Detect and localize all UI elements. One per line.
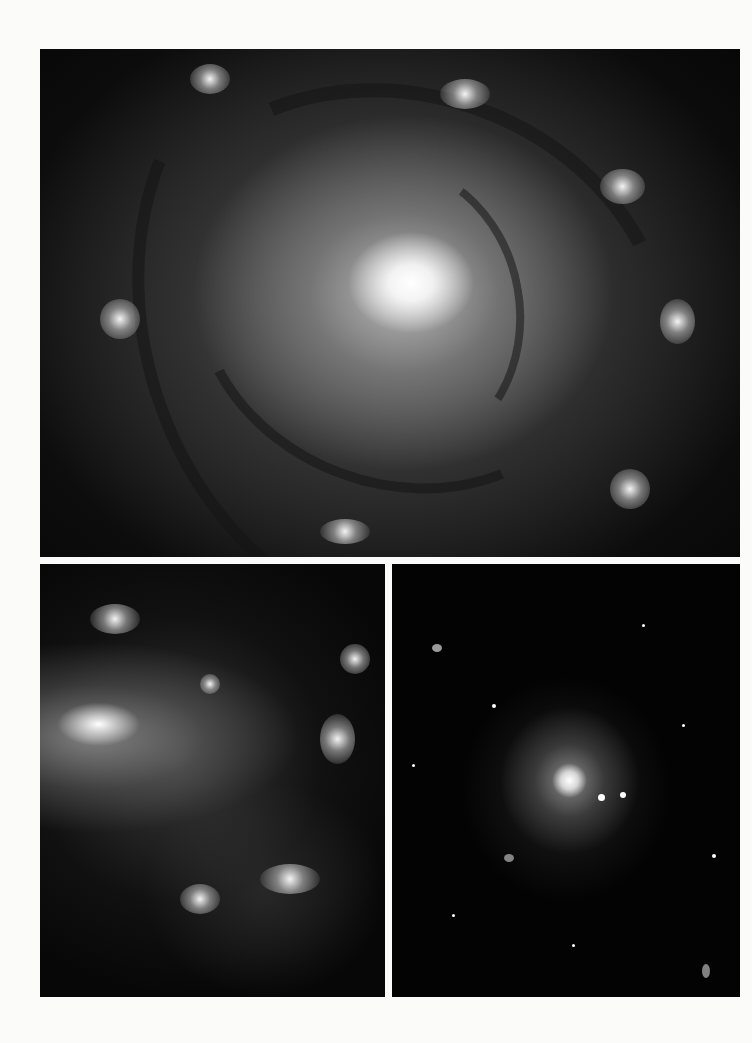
star-cluster (320, 519, 370, 544)
star (412, 764, 415, 767)
star (682, 724, 685, 727)
spiral-galaxy-photo (40, 49, 740, 557)
star-cluster (180, 884, 220, 914)
star (702, 964, 710, 978)
star (620, 792, 626, 798)
star-cluster (320, 714, 355, 764)
irregular-galaxy-photo (40, 564, 385, 997)
star (492, 704, 496, 708)
star-cluster (440, 79, 490, 109)
star (598, 794, 605, 801)
elliptical-galaxy-photo (392, 564, 740, 997)
star-cluster (600, 169, 645, 204)
star (452, 914, 455, 917)
star (712, 854, 716, 858)
star (504, 854, 514, 862)
star (432, 644, 442, 652)
star-cluster (200, 674, 220, 694)
star-cluster (260, 864, 320, 894)
star-cluster (610, 469, 650, 509)
star (572, 944, 575, 947)
star-cluster (90, 604, 140, 634)
star (642, 624, 645, 627)
star-cluster (100, 299, 140, 339)
star-cluster (660, 299, 695, 344)
star-cluster (340, 644, 370, 674)
star-cluster (190, 64, 230, 94)
